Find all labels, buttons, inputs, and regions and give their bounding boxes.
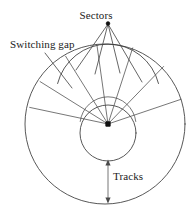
sectors-label: Sectors	[79, 10, 112, 21]
sector-divider-line	[108, 99, 181, 124]
sector-divider-line	[40, 82, 108, 124]
sector-divider-line	[30, 107, 108, 124]
middle-track-arc	[58, 44, 159, 83]
tracks-arrow-head-down	[105, 198, 110, 204]
sector-divider-line	[108, 67, 164, 125]
outer-track-circle	[25, 44, 185, 204]
sectors-leader-line	[108, 24, 120, 73]
switching-gap-leader-line	[45, 53, 72, 88]
tracks-dimension-arrow	[105, 160, 110, 204]
sector-divider-lines	[30, 45, 181, 124]
sectors-leader-lines	[76, 24, 142, 82]
tracks-label: Tracks	[113, 171, 143, 182]
inner-track-circle	[80, 105, 136, 161]
disk-sectors-tracks-figure: Sectors Switching gap Tracks	[0, 0, 194, 212]
hub-center-dot	[106, 122, 111, 127]
sectors-leader-apex-dot	[106, 22, 110, 26]
figure-canvas	[0, 0, 194, 212]
switching-gap-label: Switching gap	[10, 39, 75, 50]
sectors-leader-line	[76, 24, 108, 70]
sector-divider-line	[66, 56, 108, 124]
sectors-leader-line	[95, 24, 108, 74]
tracks-arrow-head-up	[105, 160, 110, 166]
sector-divider-line	[97, 45, 108, 124]
